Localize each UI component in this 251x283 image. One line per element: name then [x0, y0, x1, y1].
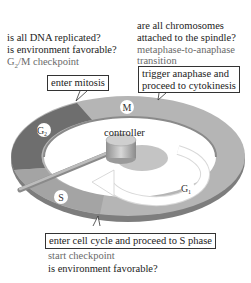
- trigger-anaphase-line-2: proceed to cytokinesis: [142, 80, 236, 92]
- start-question: is environment favorable?: [48, 263, 158, 275]
- enter-cell-cycle-box: enter cell cycle and proceed to S phase: [45, 233, 216, 249]
- phase-label-m: M: [123, 102, 132, 113]
- trigger-anaphase-line-1: trigger anaphase and: [142, 68, 236, 80]
- phase-label-s: S: [58, 192, 64, 203]
- start-checkpoint-label: start checkpoint: [48, 250, 115, 262]
- phase-marker-s: S: [54, 190, 68, 204]
- controller-cylinder: [106, 134, 136, 164]
- enter-mitosis-pointer: [76, 91, 87, 101]
- phase-label-g1-sub: 1: [188, 189, 191, 195]
- controller-label: controller: [104, 127, 145, 138]
- phase-label-g1-name: G: [181, 183, 188, 194]
- phase-label-g2-sub: 2: [44, 131, 47, 137]
- phase-label-g2-name: G: [37, 125, 44, 136]
- trigger-anaphase-box: trigger anaphase and proceed to cytokine…: [138, 66, 240, 93]
- enter-mitosis-box: enter mitosis: [47, 75, 109, 91]
- phase-marker-g1: G1: [181, 181, 195, 195]
- phase-marker-m: M: [120, 100, 134, 114]
- phase-marker-g2: G2: [37, 123, 51, 137]
